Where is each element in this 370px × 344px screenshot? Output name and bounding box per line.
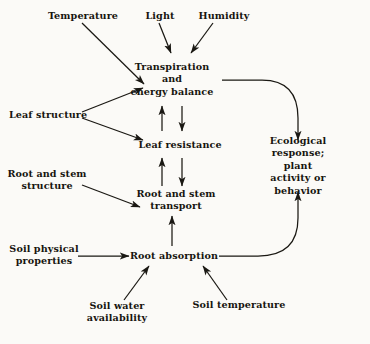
edge-rootstemstructure-transport (82, 185, 140, 207)
node-leaf-resistance: Leaf resistance (138, 139, 221, 151)
node-soil-physical-properties: Soil physical properties (9, 243, 78, 268)
node-soil-water-availability: Soil water availability (87, 300, 147, 325)
node-light: Light (145, 10, 174, 22)
node-ecological-response: Ecological response; plant activity or b… (262, 135, 334, 197)
node-soil-temperature: Soil temperature (193, 299, 286, 311)
node-root-absorption: Root absorption (130, 250, 218, 262)
edge-transpiration-ecologicalresponse (222, 80, 298, 140)
edge-soiltemperature-rootabsorption (203, 266, 227, 300)
flow-diagram: Temperature Light Humidity Transpiration… (0, 0, 370, 344)
edge-soilwater-rootabsorption (124, 266, 149, 300)
edge-light-transpiration (159, 23, 171, 53)
node-root-and-stem-transport: Root and stem transport (136, 188, 215, 213)
node-humidity: Humidity (199, 10, 250, 22)
edge-leafstructure-leafresistance (82, 118, 143, 140)
edge-humidity-transpiration (191, 23, 213, 53)
edge-rootabsorption-ecologicalresponse (219, 192, 298, 256)
node-transpiration-energy-balance: Transpiration and energy balance (131, 61, 214, 98)
node-temperature: Temperature (48, 10, 118, 22)
node-root-and-stem-structure: Root and stem structure (7, 168, 86, 193)
node-leaf-structure: Leaf structure (9, 109, 87, 121)
